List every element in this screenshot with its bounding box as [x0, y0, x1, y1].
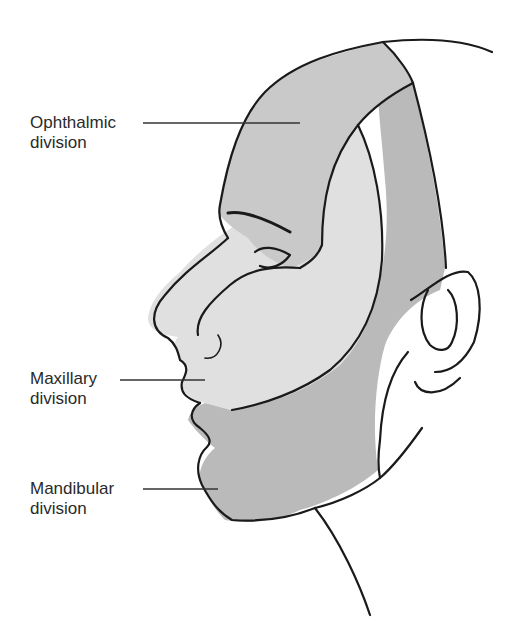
- label-ophthalmic-division: Ophthalmic division: [30, 113, 116, 153]
- neck-front: [315, 508, 370, 615]
- earlobe: [415, 378, 460, 392]
- scalp-line: [383, 40, 492, 52]
- label-line2: division: [30, 133, 116, 153]
- label-line2: division: [30, 499, 114, 519]
- label-line2: division: [30, 389, 97, 409]
- rear-neck-border: [379, 352, 409, 478]
- label-line1: Mandibular: [30, 479, 114, 499]
- label-line1: Maxillary: [30, 369, 97, 389]
- face-diagram: [0, 0, 517, 637]
- label-mandibular-division: Mandibular division: [30, 479, 114, 519]
- ear-inner: [422, 290, 457, 350]
- label-maxillary-division: Maxillary division: [30, 369, 97, 409]
- label-line1: Ophthalmic: [30, 113, 116, 133]
